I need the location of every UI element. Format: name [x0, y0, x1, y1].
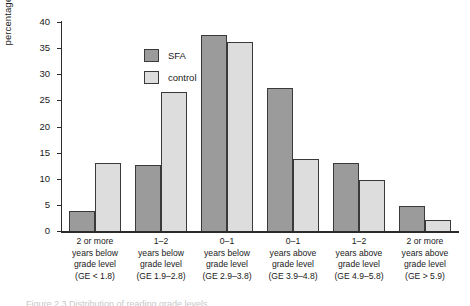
category-label-line: years below	[194, 248, 260, 260]
y-tick-label: 35	[30, 41, 50, 54]
bar-control-4	[293, 159, 319, 231]
y-tick-label: 0	[30, 224, 50, 237]
bar-sfa-6	[399, 206, 425, 231]
y-tick: 0	[57, 231, 62, 232]
category-label-line: (GE > 5.9)	[392, 271, 458, 283]
bar-control-5	[359, 180, 385, 231]
category-label-line: grade level	[62, 259, 128, 271]
plot-area: 0510152025303540 SFA control	[62, 22, 458, 231]
y-axis-title: percentage of students	[2, 0, 18, 76]
legend-label-sfa: SFA	[168, 50, 186, 61]
category-label-5: 1–2years abovegrade level(GE 4.9–5.8)	[326, 236, 392, 282]
bar-group	[260, 22, 326, 231]
legend-swatch-sfa-icon	[144, 49, 159, 62]
bar-chart-figure: percentage of students 0510152025303540 …	[0, 0, 470, 306]
y-tick-label: 30	[30, 67, 50, 80]
category-label-6: 2 or moreyears abovegrade level(GE > 5.9…	[392, 236, 458, 282]
legend-item-control: control	[144, 66, 264, 88]
bar-group	[62, 22, 128, 231]
category-label-line: grade level	[260, 259, 326, 271]
y-tick-label: 20	[30, 120, 50, 133]
category-label-line: years above	[326, 248, 392, 260]
y-tick-label: 40	[30, 15, 50, 28]
bar-control-6	[425, 220, 451, 231]
x-axis-category-labels: 2 or moreyears belowgrade level(GE < 1.8…	[62, 236, 458, 282]
category-label-line: years above	[392, 248, 458, 260]
cut-off-caption: Figure 2.3 Distribution of reading grade…	[26, 299, 326, 306]
bar-control-1	[95, 163, 121, 231]
y-tick-label: 15	[30, 146, 50, 159]
y-tick-label: 25	[30, 93, 50, 106]
bar-sfa-5	[333, 163, 359, 231]
category-label-line: grade level	[128, 259, 194, 271]
category-label-1: 2 or moreyears belowgrade level(GE < 1.8…	[62, 236, 128, 282]
category-label-line: years below	[62, 248, 128, 260]
category-label-line: (GE < 1.8)	[62, 271, 128, 283]
category-label-line: grade level	[326, 259, 392, 271]
category-label-4: 0–1years abovegrade level(GE 3.9–4.8)	[260, 236, 326, 282]
category-label-line: years below	[128, 248, 194, 260]
category-label-line: (GE 4.9–5.8)	[326, 271, 392, 283]
bar-sfa-1	[69, 211, 95, 231]
category-label-line: 0–1	[260, 236, 326, 248]
y-tick-label: 10	[30, 172, 50, 185]
category-label-line: 0–1	[194, 236, 260, 248]
bar-group	[326, 22, 392, 231]
category-label-line: (GE 2.9–3.8)	[194, 271, 260, 283]
category-label-line: grade level	[194, 259, 260, 271]
category-label-line: 1–2	[128, 236, 194, 248]
legend-swatch-control-icon	[144, 71, 159, 84]
legend-item-sfa: SFA	[144, 44, 264, 66]
category-label-line: (GE 1.9–2.8)	[128, 271, 194, 283]
x-axis-line	[61, 231, 459, 233]
category-label-line: 1–2	[326, 236, 392, 248]
category-label-line: 2 or more	[62, 236, 128, 248]
category-label-line: grade level	[392, 259, 458, 271]
bar-control-2	[161, 92, 187, 231]
legend: SFA control	[144, 44, 264, 88]
category-label-line: 2 or more	[392, 236, 458, 248]
legend-label-control: control	[168, 72, 197, 83]
category-label-3: 0–1years belowgrade level(GE 2.9–3.8)	[194, 236, 260, 282]
bar-sfa-2	[135, 165, 161, 231]
category-label-line: years above	[260, 248, 326, 260]
category-label-2: 1–2years belowgrade level(GE 1.9–2.8)	[128, 236, 194, 282]
category-label-line: (GE 3.9–4.8)	[260, 271, 326, 283]
y-tick-label: 5	[30, 198, 50, 211]
bar-sfa-4	[267, 88, 293, 231]
bar-group	[392, 22, 458, 231]
